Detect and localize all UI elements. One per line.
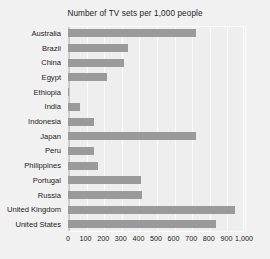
x-axis-tick-labels: 01002003004005006007008009001,000	[68, 234, 244, 248]
y-axis-label-ethiopia: Ethiopia	[0, 85, 65, 100]
y-axis-label-china: China	[0, 55, 65, 70]
bar-egypt	[68, 73, 107, 81]
bar-row	[68, 144, 244, 159]
bar-row	[68, 70, 244, 85]
y-axis-label-portugal: Portugal	[0, 173, 65, 188]
bar-india	[68, 103, 80, 111]
x-tick-600: 600	[168, 234, 180, 243]
x-tick-500: 500	[150, 234, 162, 243]
bar-portugal	[68, 176, 141, 184]
bar-russia	[68, 191, 142, 199]
bar-row	[68, 173, 244, 188]
bar-united-states	[68, 220, 216, 228]
x-tick-100: 100	[80, 234, 92, 243]
gridline-1000	[245, 27, 246, 231]
bar-row	[68, 158, 244, 173]
y-axis-label-united-states: United States	[0, 217, 65, 232]
y-axis-category-labels: AustraliaBrazilChinaEgyptEthiopiaIndiaIn…	[0, 26, 65, 232]
bar-australia	[68, 29, 196, 37]
y-axis-label-brazil: Brazil	[0, 41, 65, 56]
x-tick-400: 400	[132, 234, 144, 243]
bar-ethiopia	[68, 88, 69, 96]
y-axis-label-japan: Japan	[0, 129, 65, 144]
y-axis-label-philippines: Philippines	[0, 158, 65, 173]
bar-china	[68, 59, 124, 67]
y-axis-label-russia: Russia	[0, 188, 65, 203]
bar-row	[68, 129, 244, 144]
bar-row	[68, 114, 244, 129]
y-axis-label-indonesia: Indonesia	[0, 114, 65, 129]
bar-row	[68, 100, 244, 115]
plot-wrapper	[68, 26, 244, 232]
x-tick-300: 300	[115, 234, 127, 243]
bars-layer	[68, 26, 244, 232]
bar-row	[68, 188, 244, 203]
bar-united-kingdom	[68, 206, 235, 214]
y-axis-label-india: India	[0, 100, 65, 115]
x-tick-200: 200	[97, 234, 109, 243]
x-tick-700: 700	[185, 234, 197, 243]
chart-title: Number of TV sets per 1,000 people	[0, 9, 270, 18]
x-tick-1000: 1,000	[235, 234, 253, 243]
y-axis-label-peru: Peru	[0, 144, 65, 159]
bar-row	[68, 41, 244, 56]
y-axis-label-australia: Australia	[0, 26, 65, 41]
bar-japan	[68, 132, 196, 140]
bar-row	[68, 202, 244, 217]
bar-peru	[68, 147, 94, 155]
y-axis-label-united-kingdom: United Kingdom	[0, 202, 65, 217]
bar-chart-figure: Number of TV sets per 1,000 people Austr…	[0, 0, 270, 259]
x-tick-800: 800	[203, 234, 215, 243]
bar-row	[68, 217, 244, 232]
bar-row	[68, 55, 244, 70]
bar-row	[68, 26, 244, 41]
x-tick-0: 0	[66, 234, 70, 243]
bar-brazil	[68, 44, 128, 52]
bar-indonesia	[68, 118, 94, 126]
x-tick-900: 900	[220, 234, 232, 243]
bar-row	[68, 85, 244, 100]
bar-philippines	[68, 162, 98, 170]
y-axis-label-egypt: Egypt	[0, 70, 65, 85]
